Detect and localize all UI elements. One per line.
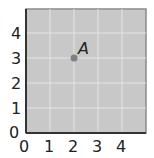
x-tick-1: 1: [44, 137, 54, 156]
point-a-marker: [71, 55, 78, 62]
y-tick-3: 3: [11, 49, 21, 68]
x-tick-4: 4: [116, 137, 126, 156]
y-tick-2: 2: [11, 74, 21, 93]
x-tick-0: 0: [19, 137, 29, 156]
coordinate-grid-chart: 0 1 2 3 4 0 1 2 3 4 A: [0, 0, 154, 158]
plot-area: [26, 9, 146, 133]
x-tick-2: 2: [68, 137, 78, 156]
y-tick-4: 4: [11, 24, 21, 43]
point-a-label: A: [77, 39, 89, 58]
y-tick-0: 0: [9, 123, 19, 142]
x-tick-3: 3: [92, 137, 102, 156]
y-tick-1: 1: [11, 99, 21, 118]
